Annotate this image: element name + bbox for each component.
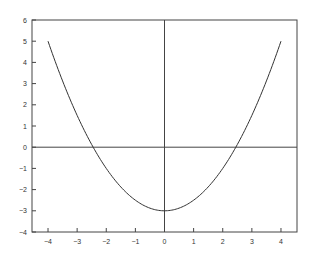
parabola-chart: −4−3−2−101234 −4−3−2−10123456 (0, 0, 312, 265)
y-tick-label: 0 (23, 144, 27, 151)
y-tick-label: 2 (23, 101, 27, 108)
y-tick-label: −4 (19, 229, 27, 236)
y-axis-ticks: −4−3−2−10123456 (19, 17, 36, 236)
x-tick-label: 0 (163, 238, 167, 245)
y-tick-label: −2 (19, 186, 27, 193)
y-tick-label: −3 (19, 207, 27, 214)
x-tick-label: 2 (221, 238, 225, 245)
reference-lines (32, 20, 297, 232)
x-tick-label: 3 (250, 238, 254, 245)
y-tick-label: 1 (23, 123, 27, 130)
x-tick-label: 1 (192, 238, 196, 245)
y-tick-label: 3 (23, 80, 27, 87)
x-axis-ticks: −4−3−2−101234 (44, 228, 283, 245)
y-tick-label: 4 (23, 59, 27, 66)
x-tick-label: 4 (279, 238, 283, 245)
y-tick-label: −1 (19, 165, 27, 172)
x-tick-label: −3 (73, 238, 81, 245)
y-tick-label: 6 (23, 17, 27, 24)
x-tick-label: −2 (102, 238, 110, 245)
x-tick-label: −4 (44, 238, 52, 245)
y-tick-label: 5 (23, 38, 27, 45)
x-tick-label: −1 (131, 238, 139, 245)
